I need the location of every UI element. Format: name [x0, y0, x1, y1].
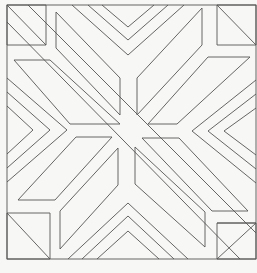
shape-layer [7, 5, 256, 259]
parallelogram-bottom-left-upper [18, 137, 112, 200]
chevron-top-middle [88, 5, 168, 40]
parallelogram-top-left-lower [14, 60, 120, 124]
parallelogram-top-right-lower [148, 57, 250, 124]
corner-square-top-right [217, 5, 256, 45]
quilt-block-drawing [0, 0, 257, 273]
chevron-left-middle [7, 92, 50, 168]
diagonal-band-nw-se-a [28, 5, 256, 233]
corner-square-bottom-left [7, 213, 50, 259]
parallelogram-top-left-upper [56, 12, 120, 115]
chevron-bottom-middle [82, 216, 174, 259]
diagonal-band-nw-se-b [7, 22, 240, 259]
chevron-bottom-inner [97, 231, 159, 259]
chevron-top-outer [72, 5, 184, 55]
corner-square-top-left [7, 5, 46, 45]
chevron-right-middle [208, 94, 256, 169]
parallelogram-bottom-right-lower [142, 138, 248, 211]
chevron-left-outer [7, 78, 67, 182]
chevron-left-inner [7, 106, 33, 154]
